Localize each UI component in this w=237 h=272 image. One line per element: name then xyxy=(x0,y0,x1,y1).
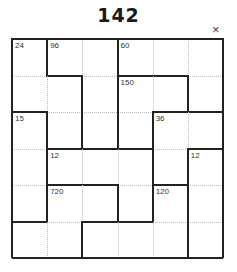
grid-cell[interactable] xyxy=(12,76,47,113)
grid-cell[interactable] xyxy=(12,185,47,222)
grid-cell[interactable] xyxy=(188,112,223,149)
grid-cell[interactable] xyxy=(188,185,223,222)
cage-clue: 36 xyxy=(156,114,165,123)
cell-divider xyxy=(47,222,82,223)
grid-cell[interactable] xyxy=(12,222,47,259)
cage-border xyxy=(46,148,48,187)
cell-divider xyxy=(188,222,223,223)
grid-cell[interactable] xyxy=(188,39,223,76)
cage-border xyxy=(152,75,189,77)
cell-divider xyxy=(82,39,83,76)
cell-divider xyxy=(82,76,117,77)
grid-cell[interactable] xyxy=(12,149,47,186)
grid-cell[interactable] xyxy=(82,112,117,149)
cell-divider xyxy=(118,112,153,113)
cage-clue: 24 xyxy=(15,41,24,50)
cell-divider xyxy=(82,185,83,222)
grid-cell[interactable] xyxy=(47,76,82,113)
cell-divider xyxy=(12,149,47,150)
cage-clue: 60 xyxy=(121,41,130,50)
cage-border xyxy=(152,184,154,223)
cage-clue: 120 xyxy=(156,187,169,196)
cage-border xyxy=(187,221,189,260)
cage-border xyxy=(11,221,48,223)
cell-divider xyxy=(118,149,119,186)
grid-cell[interactable] xyxy=(82,185,117,222)
grid-cell[interactable] xyxy=(82,39,117,76)
cell-divider xyxy=(47,222,48,259)
grid-cell[interactable] xyxy=(118,222,153,259)
cell-divider xyxy=(12,76,47,77)
cage-border xyxy=(117,75,154,77)
grid-outer-border xyxy=(222,38,224,258)
cage-border xyxy=(81,184,118,186)
cell-divider xyxy=(153,222,188,223)
cage-clue: 15 xyxy=(15,114,24,123)
grid-cell[interactable] xyxy=(118,112,153,149)
cage-clue: 12 xyxy=(50,151,59,160)
cage-border xyxy=(11,111,48,113)
grid-cell[interactable] xyxy=(82,76,117,113)
cage-clue: 96 xyxy=(50,41,59,50)
grid-cell[interactable] xyxy=(188,76,223,113)
cage-border xyxy=(46,111,48,150)
cage-border xyxy=(152,184,189,186)
cage-clue: 150 xyxy=(121,78,134,87)
cell-divider xyxy=(12,185,47,186)
cage-border xyxy=(187,148,224,150)
cage-border xyxy=(152,111,189,113)
cage-border xyxy=(117,221,154,223)
cage-border xyxy=(81,148,118,150)
cage-border xyxy=(117,75,119,114)
cage-border xyxy=(81,221,83,260)
cage-border xyxy=(46,148,83,150)
cage-border xyxy=(46,184,48,223)
cell-divider xyxy=(153,222,154,259)
grid-cell[interactable] xyxy=(153,39,188,76)
cage-clue: 12 xyxy=(191,151,200,160)
grid-cell[interactable] xyxy=(153,76,188,113)
cell-divider xyxy=(188,185,223,186)
grid-cell[interactable] xyxy=(118,185,153,222)
puzzle-title: 142 xyxy=(0,4,237,26)
cage-border xyxy=(46,75,83,77)
cell-divider xyxy=(153,76,154,113)
cell-divider xyxy=(188,76,223,77)
cage-border xyxy=(81,75,83,114)
grid-cell[interactable] xyxy=(82,222,117,259)
grid-cell[interactable] xyxy=(47,112,82,149)
cell-divider xyxy=(153,149,188,150)
cell-divider xyxy=(47,112,82,113)
grid-cell[interactable] xyxy=(82,149,117,186)
cell-divider xyxy=(153,39,154,76)
cage-border xyxy=(81,221,118,223)
cell-divider xyxy=(188,39,189,76)
cage-border xyxy=(117,184,119,223)
grid-outer-border xyxy=(12,38,223,40)
cell-divider xyxy=(118,222,119,259)
cell-divider xyxy=(47,76,48,113)
cage-border xyxy=(187,148,189,187)
cage-clue: 720 xyxy=(50,187,63,196)
grid-outer-border xyxy=(12,257,223,259)
cage-border xyxy=(187,184,189,223)
grid-cell[interactable] xyxy=(153,149,188,186)
cage-border xyxy=(46,184,83,186)
grid-cell[interactable] xyxy=(118,149,153,186)
puzzle-grid: 24966015015361212720120 xyxy=(12,39,223,258)
cage-border xyxy=(152,148,154,187)
close-icon[interactable]: × xyxy=(212,23,220,36)
cage-border xyxy=(152,111,154,150)
cage-border xyxy=(117,111,119,150)
cage-border xyxy=(81,111,83,150)
cage-border xyxy=(187,75,189,114)
cage-border xyxy=(117,148,154,150)
cell-divider xyxy=(118,185,153,186)
cage-border xyxy=(46,38,48,77)
cell-divider xyxy=(82,149,83,186)
grid-outer-border xyxy=(11,38,13,258)
grid-cell[interactable] xyxy=(47,222,82,259)
grid-cell[interactable] xyxy=(188,222,223,259)
grid-cell[interactable] xyxy=(153,222,188,259)
cage-border xyxy=(187,111,224,113)
